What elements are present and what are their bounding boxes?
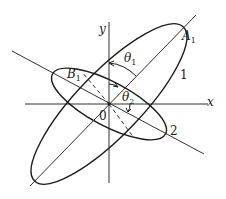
x-axis-label: x: [207, 96, 214, 108]
origin-point: [108, 103, 111, 106]
ellipse-1-label: 1: [180, 69, 188, 81]
theta2-label: θ2: [122, 91, 134, 106]
origin-label: 0: [99, 110, 107, 122]
theta1-label: θ1: [124, 52, 136, 67]
point-a1-label: A1: [182, 30, 196, 45]
principal-axis-1: [30, 15, 196, 186]
ellipse-2-label: 2: [170, 125, 178, 137]
dashed-radius-b1: [82, 72, 109, 104]
point-b1-label: B1: [67, 68, 81, 83]
y-axis-label: y: [99, 23, 106, 35]
